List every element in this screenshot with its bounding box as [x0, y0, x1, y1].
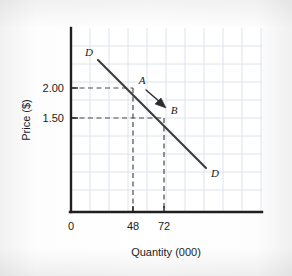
demand-label-lower: D	[210, 167, 219, 179]
y-tick-label-150: 1.50	[43, 112, 64, 124]
point-label-b: B	[171, 104, 178, 116]
x-tick-label-48: 48	[127, 220, 139, 232]
figure-container: 2.00 1.50 0 48 72 Quantity (000) Price (…	[0, 0, 292, 276]
x-tick-label-0: 0	[68, 220, 74, 232]
y-tick-label-200: 2.00	[43, 82, 64, 94]
x-axis-title: Quantity (000)	[131, 246, 201, 258]
y-axis-title: Price ($)	[20, 99, 32, 141]
x-tick-label-72: 72	[158, 220, 170, 232]
demand-label-upper: D	[84, 46, 93, 58]
demand-curve-chart: 2.00 1.50 0 48 72 Quantity (000) Price (…	[0, 0, 292, 276]
point-label-a: A	[138, 74, 146, 86]
